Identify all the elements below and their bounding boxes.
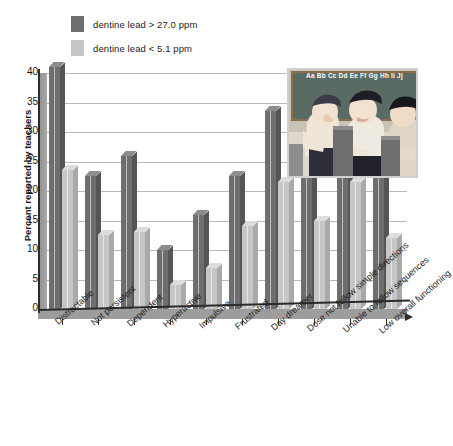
classroom-illustration-art [289, 70, 418, 178]
x-axis-label: Frustrated [233, 297, 271, 331]
x-axis-label: Dependent [125, 292, 165, 328]
chalkboard-text: Aa Bb Cc Dd Ee Ff Gg Hh Ii Jj [293, 72, 416, 79]
classroom-illustration: Aa Bb Cc Dd Ee Ff Gg Hh Ii Jj [287, 68, 418, 178]
x-axis-label: Impulsive [197, 298, 232, 330]
x-axis-label: Low overall functioning [377, 268, 453, 336]
